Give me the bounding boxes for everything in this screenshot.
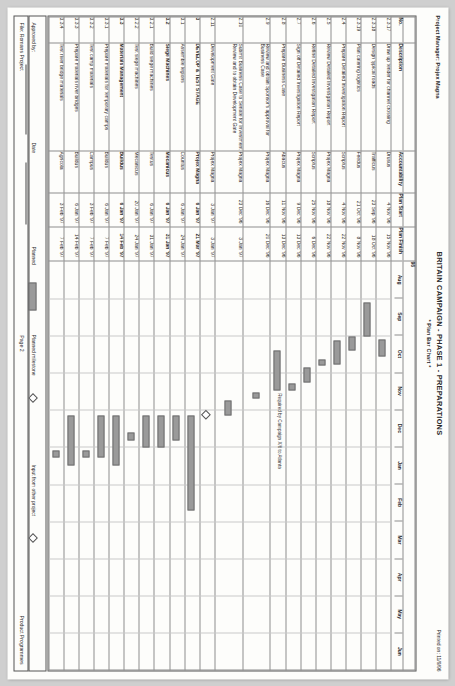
table-row[interactable]: 2.3.19Plan catering logisticsFeedus21 Oc… <box>345 17 360 670</box>
timeline-gridline <box>316 372 330 373</box>
table-row[interactable]: 2.5Review Detailed Investigation ReportP… <box>315 17 330 670</box>
table-row[interactable]: 3.3.3Prepare materials river bridgesBuil… <box>64 17 79 670</box>
row-no: 3.3.3 <box>64 17 79 43</box>
gantt-bar[interactable] <box>82 450 89 457</box>
row-plan-finish: 24 Jan '97 <box>169 227 184 261</box>
timeline-gridline <box>49 484 63 485</box>
gantt-bar[interactable] <box>363 302 370 337</box>
table-row[interactable]: 3.1Assemble legionsCountus6 Jan '9724 Ja… <box>169 17 184 670</box>
timeline-gridline <box>376 298 390 299</box>
table-row[interactable]: 2.11Development GateProjex Magna3 Jan '9… <box>199 17 214 670</box>
table-row[interactable]: 3DEVELOP & TEST STAGEProjex Magna6 Jan '… <box>184 17 199 670</box>
product-programmes-label: Product Programmes <box>17 615 23 664</box>
timeline-gridline <box>243 595 270 596</box>
timeline-gridline <box>331 409 345 410</box>
timeline-gridline <box>109 409 123 410</box>
row-accountability: Projex Magna <box>214 151 242 193</box>
timeline-gridline <box>376 446 390 447</box>
timeline-gridline <box>79 521 93 522</box>
table-row[interactable]: 2.3.17Draw up tender for channel crossin… <box>375 17 390 670</box>
table-row[interactable]: 2.3.18Design typical roadsTrafficus23 Se… <box>360 17 375 670</box>
timeline-gridline <box>64 409 78 410</box>
table-row[interactable]: 3.2Siege MachinesMecanicus6 Jan '9731 Ja… <box>154 17 169 670</box>
gantt-bar[interactable] <box>303 367 310 383</box>
row-plan-start: 3 Feb '97 <box>79 193 94 227</box>
gantt-bar[interactable] <box>378 339 385 357</box>
gantt-bar[interactable] <box>127 432 134 440</box>
gantt-bar[interactable] <box>288 383 295 390</box>
timeline-gridline <box>170 632 184 633</box>
timeline-gridline <box>243 558 270 559</box>
gantt-table: 96 No. Description Accountability Plan S… <box>48 16 415 670</box>
timeline-gridline <box>301 446 315 447</box>
row-no: 2.4 <box>330 17 345 43</box>
table-row[interactable]: 2.10Submit Business Case to Senate for I… <box>214 17 242 670</box>
gantt-bar[interactable] <box>224 400 231 415</box>
timeline-gridline <box>271 558 285 559</box>
gantt-bar[interactable] <box>252 392 259 399</box>
col-description: Description <box>391 43 403 151</box>
gantt-bar[interactable] <box>318 359 325 366</box>
timeline-gridline <box>154 298 168 299</box>
timeline-gridline <box>124 372 138 373</box>
table-row[interactable]: 2.6Refine Detailed Investigation ReportS… <box>300 17 315 670</box>
col-plan-start: Plan Start <box>391 193 403 227</box>
legend-planned-label: Planned <box>29 246 35 264</box>
table-row[interactable]: 3.3.2Test camp materialsCampus3 Feb '977… <box>79 17 94 670</box>
row-accountability: Drusus <box>375 151 390 193</box>
timeline-gridline <box>346 632 360 633</box>
gantt-bar[interactable] <box>67 415 74 465</box>
row-plan-start: 6 Jan '97 <box>154 193 169 227</box>
row-plan-start: 9 Dec '96 <box>285 193 300 227</box>
table-row[interactable]: 3.2.1Build siege machinesTestus6 Jan '97… <box>139 17 154 670</box>
gantt-bar[interactable] <box>273 350 280 390</box>
timeline-gridline <box>109 521 123 522</box>
timeline-gridline <box>346 595 360 596</box>
gantt-bar[interactable] <box>142 415 149 447</box>
table-row[interactable]: 2.9Review and obtain Sponsor's approval … <box>242 17 270 670</box>
table-row[interactable]: 3.3.1Prepare materials for temporary cam… <box>94 17 109 670</box>
gantt-bar[interactable] <box>52 450 59 457</box>
gantt-bar[interactable] <box>172 415 179 440</box>
row-description: Test siege machines <box>124 43 139 151</box>
row-plan-start: 16 Dec '96 <box>242 193 270 227</box>
row-description: Design typical roads <box>360 43 375 151</box>
timeline-gridline <box>49 521 63 522</box>
table-row[interactable]: 3.3Materials ManagementBuildus6 Jan '971… <box>109 17 124 670</box>
gantt-bar[interactable] <box>97 415 104 456</box>
timeline-gridline <box>316 446 330 447</box>
table-row[interactable]: 2.8Prepare Business CaseAbacus11 Nov '96… <box>270 17 285 670</box>
timeline-gridline <box>170 446 184 447</box>
table-row[interactable]: 2.4Prepare Detailed Investigation Report… <box>330 17 345 670</box>
gantt-bar[interactable] <box>112 415 119 465</box>
legend-planned-bar <box>29 282 37 310</box>
row-timeline-cell <box>154 261 169 670</box>
gantt-bar[interactable] <box>157 415 164 447</box>
timeline-gridline <box>286 409 300 410</box>
timeline-gridline <box>301 409 315 410</box>
row-timeline-cell <box>79 261 94 670</box>
row-description: DEVELOP & TEST STAGE <box>184 43 199 151</box>
row-description: Review Detailed Investigation Report <box>315 43 330 151</box>
timeline-gridline <box>64 595 78 596</box>
timeline-gridline <box>124 558 138 559</box>
row-no: 3.2.2 <box>124 17 139 43</box>
timeline-gridline <box>185 409 199 410</box>
timeline-gridline <box>376 521 390 522</box>
timeline-gridline <box>49 298 63 299</box>
gantt-bar[interactable] <box>348 336 355 350</box>
table-row[interactable]: 3.2.2Test siege machinesMecanicus20 Jan … <box>124 17 139 670</box>
col-no: No. <box>391 17 403 43</box>
gantt-bar[interactable] <box>333 340 340 364</box>
table-row[interactable]: 3.3.4Test river bridge materialsAgricola… <box>49 17 64 670</box>
timeline-gridline <box>200 298 214 299</box>
row-plan-start: 21 Oct '96 <box>345 193 360 227</box>
timeline-gridline <box>94 558 108 559</box>
gantt-bar[interactable] <box>187 415 194 509</box>
timeline-gridline <box>215 372 242 373</box>
row-timeline-cell <box>375 261 390 670</box>
timeline-gridline <box>361 632 375 633</box>
timeline-gridline <box>243 409 270 410</box>
table-row[interactable]: 2.7Sign off Detailed Investigation Repor… <box>285 17 300 670</box>
legend-input-other-project-label: Input from other project <box>29 464 35 516</box>
